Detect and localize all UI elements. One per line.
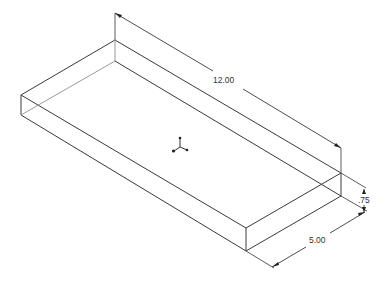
dimension-length-label: 12.00 xyxy=(213,75,235,85)
dimension-length[interactable]: 12.00 xyxy=(115,13,341,173)
drawing-canvas: 12.00 .75 5.00 xyxy=(0,0,388,285)
arrowhead-icon xyxy=(272,262,279,267)
dimension-height-label: .75 xyxy=(358,195,370,205)
dimension-width[interactable]: 5.00 xyxy=(246,212,365,268)
dimension-height[interactable]: .75 xyxy=(341,173,370,212)
arrowhead-icon xyxy=(362,207,366,212)
dimension-line-length-a xyxy=(115,13,213,71)
edge-bottom-front-right xyxy=(246,196,341,251)
edge-top-back-left xyxy=(21,40,115,95)
edge-bottom-back-left xyxy=(21,61,115,115)
edge-bottom-front-left xyxy=(21,115,246,251)
dimension-width-label: 5.00 xyxy=(309,235,326,245)
dimension-line-length-b xyxy=(243,89,341,148)
edge-top-back xyxy=(115,40,341,173)
edge-top-front-left xyxy=(21,95,246,228)
extension-line-width-start xyxy=(246,251,274,268)
arrowhead-icon xyxy=(358,212,365,216)
edge-top-front-right xyxy=(246,173,341,228)
arrowhead-icon xyxy=(362,189,366,194)
arrowhead-icon xyxy=(115,13,122,18)
origin-triad-icon xyxy=(172,137,188,153)
extension-line-height-top xyxy=(341,173,366,188)
arrowhead-icon xyxy=(334,143,341,148)
part-body xyxy=(21,40,341,251)
